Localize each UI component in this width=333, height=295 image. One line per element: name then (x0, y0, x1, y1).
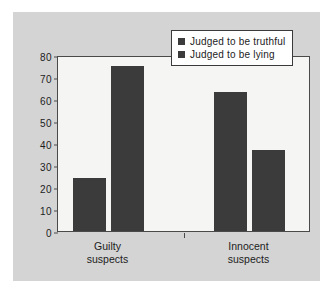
y-axis-tick-label: 30 (40, 162, 52, 173)
y-axis-tick-mark (54, 79, 58, 80)
legend-item-lying[interactable]: Judged to be lying (178, 48, 285, 61)
y-axis-tick-label: 60 (40, 96, 52, 107)
bar (214, 92, 247, 231)
chart-legend: Judged to be truthful Judged to be lying (171, 30, 293, 66)
y-axis-tick-mark (54, 123, 58, 124)
y-axis-tick-label: 10 (40, 206, 52, 217)
category-label-line: suspects (189, 253, 309, 266)
y-axis-tick-label: 80 (40, 52, 52, 63)
legend-swatch-icon (178, 38, 185, 45)
y-axis-tick-label: 70 (40, 74, 52, 85)
y-axis-tick-label: 20 (40, 184, 52, 195)
y-axis-tick-mark (54, 101, 58, 102)
y-axis-tick-mark (54, 211, 58, 212)
legend-label: Judged to be lying (190, 49, 275, 60)
plot-area: 01020304050607080 (57, 56, 310, 232)
x-axis-category-label: Innocentsuspects (189, 240, 309, 266)
category-label-line: Innocent (228, 240, 268, 252)
y-axis-tick-mark (54, 233, 58, 234)
y-axis-tick-mark (54, 145, 58, 146)
bar (73, 178, 106, 231)
y-axis-tick-mark (54, 167, 58, 168)
category-label-line: Guilty (94, 240, 121, 252)
bar (252, 150, 285, 231)
chart-figure: 01020304050607080 GuiltysuspectsInnocent… (13, 12, 320, 281)
y-axis-tick-mark (54, 57, 58, 58)
category-separator-tick (184, 233, 185, 238)
y-axis-tick-mark (54, 189, 58, 190)
x-axis-category-label: Guiltysuspects (48, 240, 168, 266)
bar (111, 66, 144, 231)
category-label-line: suspects (48, 253, 168, 266)
legend-swatch-icon (178, 51, 185, 58)
y-axis-tick-label: 50 (40, 118, 52, 129)
y-axis-tick-label: 0 (46, 228, 52, 239)
legend-item-truthful[interactable]: Judged to be truthful (178, 35, 285, 48)
legend-label: Judged to be truthful (190, 36, 285, 47)
y-axis-tick-label: 40 (40, 140, 52, 151)
